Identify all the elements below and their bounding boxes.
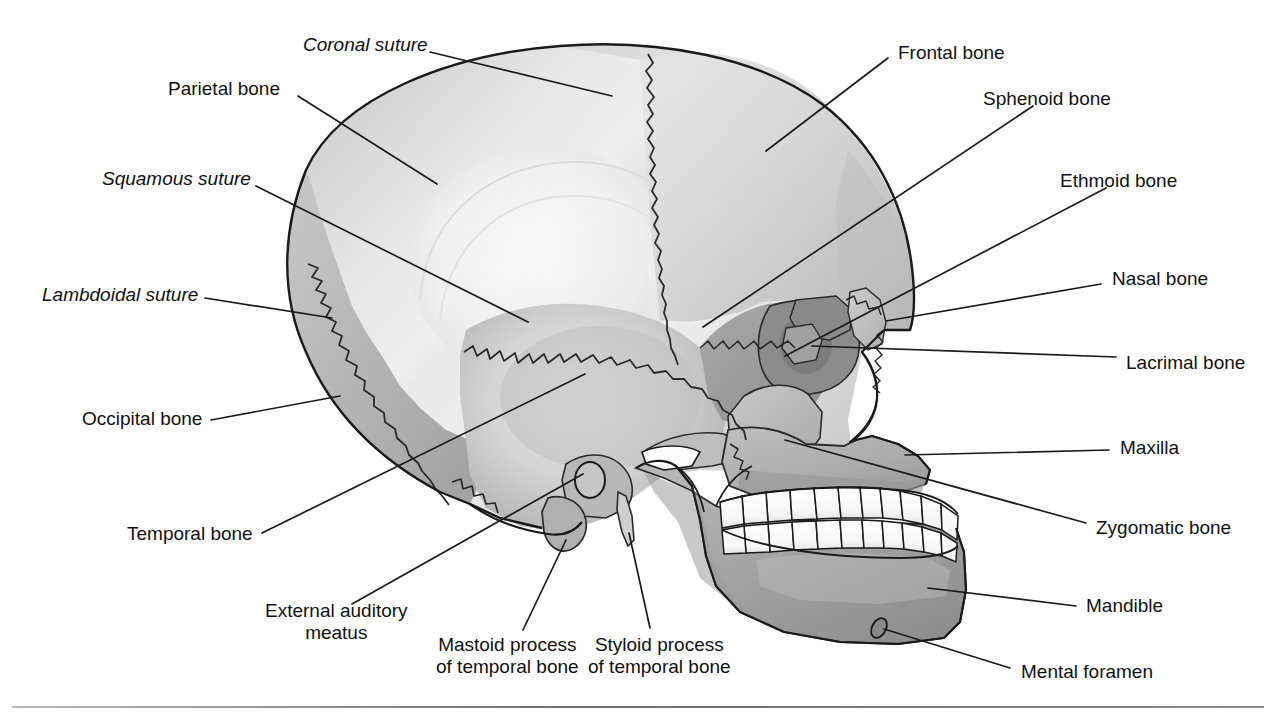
label-maxilla: Maxilla (1120, 437, 1179, 459)
label-lambdoidal-suture: Lambdoidal suture (42, 284, 198, 306)
label-frontal-bone: Frontal bone (898, 42, 1005, 64)
label-squamous-suture: Squamous suture (102, 168, 251, 190)
skull-diagram-figure: Coronal suture Parietal bone Squamous su… (0, 0, 1276, 721)
label-mental-foramen: Mental foramen (1021, 661, 1153, 683)
external-auditory-meatus-opening (575, 462, 605, 498)
skull-bone-regions (287, 44, 966, 644)
label-external-auditory-meatus: External auditory meatus (265, 600, 408, 644)
leader-line-mastoid-process (523, 540, 566, 630)
leader-line-maxilla (905, 450, 1109, 455)
label-lacrimal-bone: Lacrimal bone (1126, 352, 1245, 374)
leader-line-nasal-bone (886, 284, 1101, 321)
leader-line-occipital-bone (211, 396, 340, 420)
label-mastoid-process: Mastoid process of temporal bone (436, 634, 579, 678)
label-zygomatic-bone: Zygomatic bone (1096, 517, 1231, 539)
label-temporal-bone: Temporal bone (127, 523, 253, 545)
leader-line-styloid-process (629, 533, 650, 628)
label-nasal-bone: Nasal bone (1112, 268, 1208, 290)
mandibular-fossa (642, 446, 700, 470)
label-ethmoid-bone: Ethmoid bone (1060, 170, 1177, 192)
label-occipital-bone: Occipital bone (82, 408, 202, 430)
footer-divider (12, 706, 1264, 708)
label-parietal-bone: Parietal bone (168, 78, 280, 100)
label-styloid-process: Styloid process of temporal bone (588, 634, 731, 678)
label-coronal-suture: Coronal suture (303, 34, 428, 56)
label-sphenoid-bone: Sphenoid bone (983, 88, 1111, 110)
label-mandible: Mandible (1086, 595, 1163, 617)
